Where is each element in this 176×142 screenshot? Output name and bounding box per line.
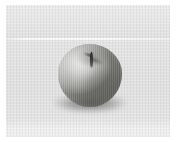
page-margin-bottom xyxy=(0,137,176,142)
apple-stem-flare-left-icon xyxy=(83,52,92,58)
apple-highlight xyxy=(67,52,97,77)
cloth-foot-band xyxy=(6,120,170,138)
apple-stem-flare-right-icon xyxy=(92,58,104,65)
image-caption: A single apple resting on a striped clot… xyxy=(0,0,1,1)
photo-plate xyxy=(6,5,170,138)
apple-stem xyxy=(90,52,93,69)
cloth-upper-band xyxy=(6,5,170,39)
photograph-canvas: A single apple resting on a striped clot… xyxy=(0,0,176,142)
apple-stem-well xyxy=(78,48,106,66)
page-margin-right xyxy=(170,0,176,142)
